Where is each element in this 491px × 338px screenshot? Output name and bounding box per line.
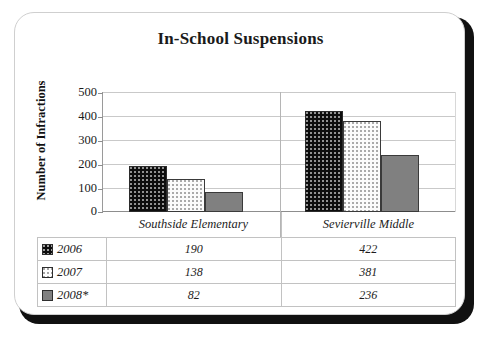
column-header-southside-elementary: Southside Elementary xyxy=(107,212,282,238)
gridline-300: 300 xyxy=(103,140,455,141)
chart-card-surface: In-School Suspensions Number of Infracti… xyxy=(14,12,465,315)
bar-2007-sevierville-middle xyxy=(343,121,381,212)
legend-label-2007: 2007 xyxy=(57,265,82,280)
gridline-500: 500 xyxy=(103,92,455,93)
legend-item-2008[interactable]: 2008* xyxy=(38,284,107,307)
column-header-sevierville-middle: Sevierville Middle xyxy=(281,212,456,238)
cell-2007-southside-elementary: 138 xyxy=(107,261,282,284)
ytick-label-300: 300 xyxy=(78,133,97,148)
chart-data-table: Southside Elementary Sevierville Middle … xyxy=(37,212,456,307)
ytick-label-200: 200 xyxy=(78,157,97,172)
table-row: 2008* 82 236 xyxy=(38,284,456,307)
ytick-mark-200 xyxy=(98,165,103,166)
cell-2006-southside-elementary: 190 xyxy=(107,238,282,261)
ytick-mark-400 xyxy=(98,117,103,118)
cell-2007-sevierville-middle: 381 xyxy=(281,261,456,284)
bar-2008-sevierville-middle xyxy=(381,155,419,212)
legend-swatch-2008-icon xyxy=(42,290,53,301)
table-row: 2006 190 422 xyxy=(38,238,456,261)
legend-label-2008: 2008* xyxy=(57,288,88,303)
ytick-mark-500 xyxy=(98,93,103,94)
cell-2008-southside-elementary: 82 xyxy=(107,284,282,307)
ytick-label-500: 500 xyxy=(78,85,97,100)
ytick-label-100: 100 xyxy=(78,181,97,196)
gridline-400: 400 xyxy=(103,116,455,117)
table-row: 2007 138 381 xyxy=(38,261,456,284)
table-corner-cell xyxy=(38,212,107,238)
legend-swatch-2007-icon xyxy=(42,267,53,278)
table-row-categories: Southside Elementary Sevierville Middle xyxy=(38,212,456,238)
bar-2008-southside-elementary xyxy=(205,192,243,212)
bar-2007-southside-elementary xyxy=(167,179,205,212)
cell-2008-sevierville-middle: 236 xyxy=(281,284,456,307)
cell-2006-sevierville-middle: 422 xyxy=(281,238,456,261)
ytick-mark-100 xyxy=(98,189,103,190)
legend-item-2007[interactable]: 2007 xyxy=(38,261,107,284)
y-axis-title: Number of Infractions xyxy=(34,71,49,211)
bar-2006-sevierville-middle xyxy=(305,111,343,212)
legend-item-2006[interactable]: 2006 xyxy=(38,238,107,261)
chart-title: In-School Suspensions xyxy=(15,29,465,49)
ytick-label-400: 400 xyxy=(78,109,97,124)
plot-area: 500 400 300 200 100 0 xyxy=(102,92,456,212)
legend-label-2006: 2006 xyxy=(57,242,82,257)
chart-card: In-School Suspensions Number of Infracti… xyxy=(14,12,474,324)
bar-2006-southside-elementary xyxy=(129,166,167,212)
ytick-mark-300 xyxy=(98,141,103,142)
legend-swatch-2006-icon xyxy=(42,244,53,255)
